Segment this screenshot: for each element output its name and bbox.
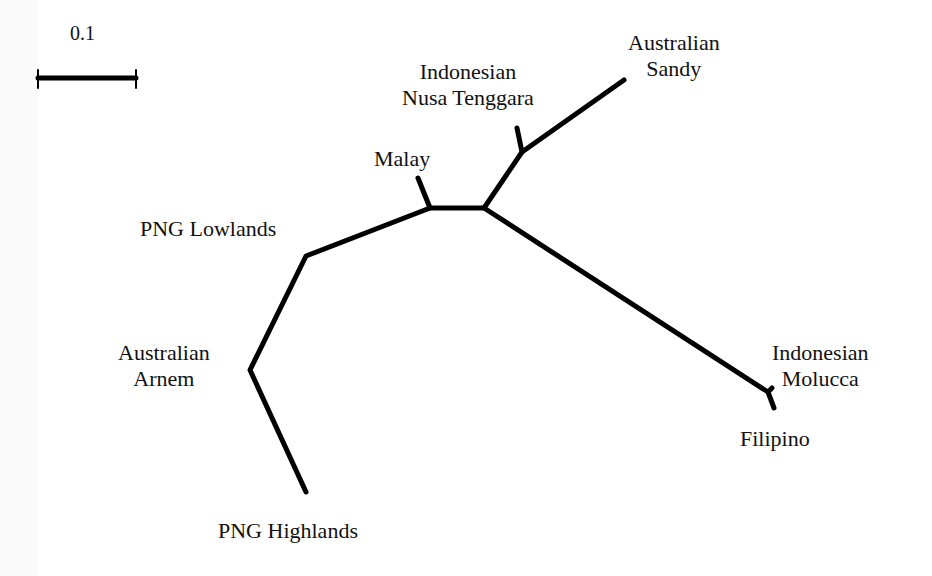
taxon-filipino: Filipino bbox=[740, 426, 810, 452]
taxon-indonesian-nusa-tenggara: Indonesian Nusa Tenggara bbox=[402, 59, 534, 111]
taxon-png-highlands: PNG Highlands bbox=[218, 518, 358, 544]
taxon-indonesian-molucca: Indonesian Molucca bbox=[772, 340, 869, 392]
scale-bar-label: 0.1 bbox=[70, 22, 95, 45]
taxon-malay: Malay bbox=[374, 146, 430, 172]
taxon-australian-sandy: Australian Sandy bbox=[628, 30, 720, 82]
taxon-australian-arnem: Australian Arnem bbox=[118, 340, 210, 392]
taxon-png-lowlands: PNG Lowlands bbox=[140, 216, 276, 242]
